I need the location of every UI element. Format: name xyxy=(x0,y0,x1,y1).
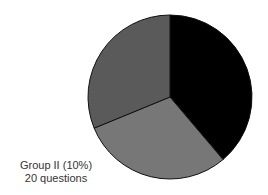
annotation-line-2: 20 questions xyxy=(6,172,106,185)
group-ii-annotation: Group II (10%) 20 questions xyxy=(6,159,106,185)
annotation-line-1: Group II (10%) xyxy=(6,159,106,172)
